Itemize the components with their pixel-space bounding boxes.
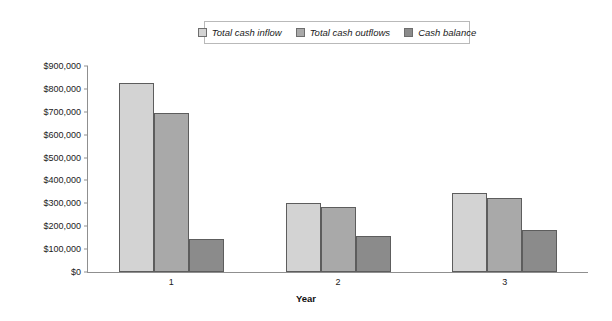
y-tick-label: $900,000 (43, 62, 84, 71)
bar-chart: Total cash inflowTotal cash outflowsCash… (0, 0, 612, 321)
bar (452, 193, 487, 272)
y-tick: $900,000 (43, 62, 88, 71)
y-tick-mark (84, 66, 88, 67)
x-tick-label: 1 (169, 278, 174, 287)
y-tick-mark (84, 157, 88, 158)
y-tick: $600,000 (43, 130, 88, 139)
y-tick: $700,000 (43, 107, 88, 116)
bar (154, 113, 189, 272)
x-tick-label: 3 (502, 278, 507, 287)
y-tick: $500,000 (43, 153, 88, 162)
y-tick-label: $100,000 (43, 245, 84, 254)
y-tick: $200,000 (43, 222, 88, 231)
y-tick-mark (84, 88, 88, 89)
y-tick-mark (84, 111, 88, 112)
bar (487, 198, 522, 272)
y-tick-mark (84, 134, 88, 135)
bar (119, 83, 154, 272)
x-axis-line (87, 272, 588, 273)
y-tick-label: $800,000 (43, 84, 84, 93)
chart-legend: Total cash inflowTotal cash outflowsCash… (204, 21, 470, 44)
y-tick-mark (84, 226, 88, 227)
y-tick-mark (84, 249, 88, 250)
legend-entry[interactable]: Total cash inflow (198, 28, 282, 38)
plot-area: $0$100,000$200,000$300,000$400,000$500,0… (88, 66, 588, 272)
y-tick: $0 (71, 268, 88, 277)
y-tick-mark (84, 180, 88, 181)
y-tick-mark (84, 272, 88, 273)
y-tick-label: $500,000 (43, 153, 84, 162)
bar (189, 239, 224, 272)
legend-swatch-icon (198, 28, 207, 37)
bar (286, 203, 321, 272)
y-tick-label: $600,000 (43, 130, 84, 139)
y-tick: $300,000 (43, 199, 88, 208)
legend-entry[interactable]: Cash balance (404, 28, 476, 38)
legend-swatch-icon (296, 28, 305, 37)
y-tick-label: $700,000 (43, 107, 84, 116)
y-tick-label: $200,000 (43, 222, 84, 231)
y-tick: $100,000 (43, 245, 88, 254)
y-tick-label: $400,000 (43, 176, 84, 185)
bar (356, 236, 391, 272)
y-tick: $400,000 (43, 176, 88, 185)
legend-label: Total cash inflow (212, 28, 282, 38)
x-axis-title: Year (0, 294, 612, 304)
legend-entry[interactable]: Total cash outflows (296, 28, 390, 38)
x-tick-label: 2 (335, 278, 340, 287)
y-tick-label: $0 (71, 268, 84, 277)
legend-label: Cash balance (418, 28, 476, 38)
legend-swatch-icon (404, 28, 413, 37)
y-tick-label: $300,000 (43, 199, 84, 208)
y-tick: $800,000 (43, 84, 88, 93)
bar (321, 207, 356, 272)
y-tick-mark (84, 203, 88, 204)
bar (522, 230, 557, 272)
legend-label: Total cash outflows (310, 28, 390, 38)
